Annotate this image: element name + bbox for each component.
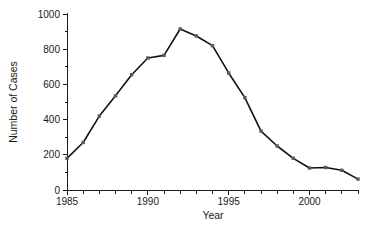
data-point-marker [81,141,84,144]
data-point-marker [65,157,68,160]
y-tick-label: 1000 [38,9,61,20]
x-tick-label: 2000 [298,196,321,207]
data-point-marker [195,34,198,37]
y-tick-label: 200 [43,149,60,160]
chart-container: 02004006008001000 1985199019952000 Year … [0,0,376,226]
data-point-marker [259,129,262,132]
data-point-marker [340,169,343,172]
data-point-marker [308,166,311,169]
data-point-marker [98,114,101,117]
y-axis-title: Number of Cases [7,61,19,143]
data-point-marker [275,144,278,147]
y-axis: 02004006008001000 [38,9,67,196]
x-tick-label: 1990 [137,196,160,207]
data-point-marker [227,71,230,74]
y-tick-label: 0 [54,185,60,196]
line-chart: 02004006008001000 1985199019952000 Year … [0,0,376,226]
y-tick-label: 400 [43,114,60,125]
data-point-marker [292,157,295,160]
data-point-marker [243,96,246,99]
x-axis: 1985199019952000 [56,190,358,207]
data-point-marker [146,56,149,59]
data-point-marker [130,73,133,76]
x-tick-label: 1985 [56,196,79,207]
data-point-marker [162,54,165,57]
x-axis-title: Year [202,209,224,221]
data-point-marker [178,27,181,30]
y-tick-label: 600 [43,79,60,90]
y-tick-label: 800 [43,44,60,55]
data-point-marker [114,94,117,97]
data-point-marker [324,166,327,169]
data-point-marker [211,44,214,47]
data-line [67,29,358,179]
data-series [65,27,359,181]
data-point-marker [356,177,359,180]
x-tick-label: 1995 [218,196,241,207]
